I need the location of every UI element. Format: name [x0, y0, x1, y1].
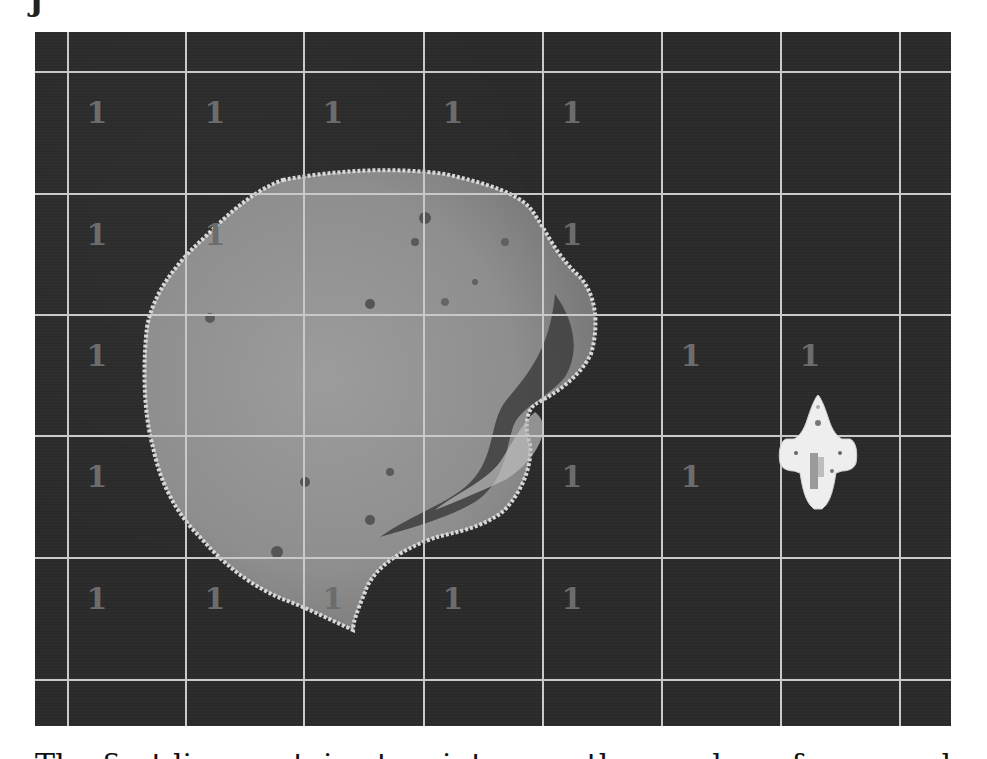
grid-vertical-line	[780, 32, 782, 726]
cell-value: 1	[676, 462, 706, 492]
grid-vertical-line	[185, 32, 187, 726]
spaceship-icon[interactable]	[776, 393, 860, 510]
grid-vertical-line	[661, 32, 663, 726]
cell-value: 1	[557, 462, 587, 492]
grid-horizontal-line	[35, 193, 951, 195]
grid-vertical-line	[303, 32, 305, 726]
grid-horizontal-line	[35, 679, 951, 681]
board-texture	[35, 32, 951, 726]
cell-value: 1	[82, 98, 112, 128]
cell-value: 1	[795, 341, 825, 371]
cell-value: 1	[557, 98, 587, 128]
cell-value: 1	[676, 341, 706, 371]
clipped-text-line-above: j	[30, 0, 42, 18]
cell-value: 1	[82, 462, 112, 492]
grid-vertical-line	[67, 32, 69, 726]
cell-value: 1	[557, 584, 587, 614]
grid-vertical-line	[899, 32, 901, 726]
cell-value: 1	[318, 584, 348, 614]
cell-value: 1	[200, 98, 230, 128]
grid-horizontal-line	[35, 557, 951, 559]
game-board[interactable]: 11111111111111111111	[35, 32, 951, 726]
caption-text: The first line contains two integers, th…	[35, 750, 951, 759]
cell-value: 1	[200, 220, 230, 250]
cell-value: 1	[318, 98, 348, 128]
cell-value: 1	[82, 220, 112, 250]
cell-value: 1	[438, 584, 468, 614]
grid-horizontal-line	[35, 314, 951, 316]
cell-value: 1	[438, 98, 468, 128]
grid-horizontal-line	[35, 71, 951, 73]
cell-value: 1	[82, 584, 112, 614]
cell-value: 1	[82, 341, 112, 371]
cell-value: 1	[557, 220, 587, 250]
grid-vertical-line	[423, 32, 425, 726]
asteroid-icon	[35, 32, 951, 726]
grid-vertical-line	[542, 32, 544, 726]
cell-value: 1	[200, 584, 230, 614]
